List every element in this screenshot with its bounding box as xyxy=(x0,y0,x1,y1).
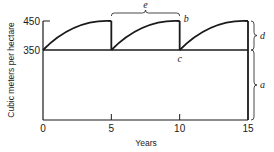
brace-a xyxy=(251,50,257,120)
annotation-label-d: d xyxy=(260,30,266,41)
x-axis-title: Years xyxy=(135,138,156,148)
growth-curve xyxy=(180,21,248,50)
annotation-label-c: c xyxy=(177,53,182,64)
growth-curve xyxy=(43,21,111,50)
annotation-label-b: b xyxy=(184,13,189,24)
chart: 051015350450 ebcda Cubic meters per hect… xyxy=(0,0,274,152)
annotations: ebcda xyxy=(111,0,266,120)
brace-e xyxy=(111,10,179,16)
annotation-label-e: e xyxy=(143,0,148,10)
annotation-label-a: a xyxy=(260,79,265,90)
x-tick-label: 10 xyxy=(174,123,186,134)
y-axis-title: Cubic meters per hectare xyxy=(6,22,16,118)
labels: Cubic meters per hectare Years xyxy=(6,22,157,148)
axes: 051015350450 xyxy=(23,16,254,135)
growth-curve xyxy=(111,21,179,50)
x-tick-label: 0 xyxy=(40,123,46,134)
x-tick-label: 15 xyxy=(242,123,254,134)
y-tick-label: 450 xyxy=(23,16,40,27)
brace-d xyxy=(251,21,257,50)
series-marks xyxy=(43,21,248,120)
y-tick-label: 350 xyxy=(23,45,40,56)
x-tick-label: 5 xyxy=(109,123,115,134)
